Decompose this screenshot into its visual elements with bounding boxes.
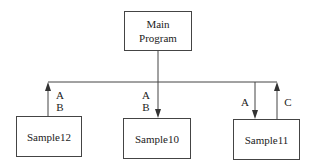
flow-label-sample11-c: C bbox=[283, 96, 293, 108]
main-program-box: Main Program bbox=[124, 11, 192, 51]
main-program-label-line1: Main bbox=[139, 17, 177, 31]
flow-label-sample11-a: A bbox=[240, 96, 250, 108]
flow-label-sample12-a: A bbox=[55, 89, 65, 101]
arrow-down-icon bbox=[155, 109, 161, 118]
arrow-up-icon bbox=[45, 82, 51, 91]
sample10-label: Sample10 bbox=[135, 132, 179, 146]
arrow-up-icon bbox=[274, 82, 280, 91]
arrow-down-icon bbox=[252, 110, 258, 119]
main-program-label-line2: Program bbox=[139, 31, 177, 45]
sample10-box: Sample10 bbox=[123, 118, 191, 159]
sample11-box: Sample11 bbox=[233, 119, 300, 160]
sample11-label: Sample11 bbox=[245, 133, 289, 147]
sample12-box: Sample12 bbox=[16, 116, 82, 157]
sample12-label: Sample12 bbox=[27, 130, 71, 144]
flow-label-sample12-b: B bbox=[55, 101, 65, 113]
flow-label-sample10-b: B bbox=[141, 101, 151, 113]
flow-label-sample10-a: A bbox=[141, 89, 151, 101]
